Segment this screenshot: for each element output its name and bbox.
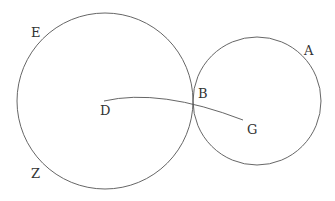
- label-B: B: [198, 86, 208, 101]
- small-circle: [193, 37, 321, 165]
- label-E: E: [31, 25, 41, 40]
- arc-D-B-G: [104, 97, 243, 120]
- label-D: D: [100, 103, 110, 118]
- label-A: A: [303, 43, 314, 58]
- euclid-tangent-circles-diagram: E Z D B G A: [0, 0, 335, 201]
- label-Z: Z: [31, 166, 40, 181]
- label-G: G: [247, 122, 257, 137]
